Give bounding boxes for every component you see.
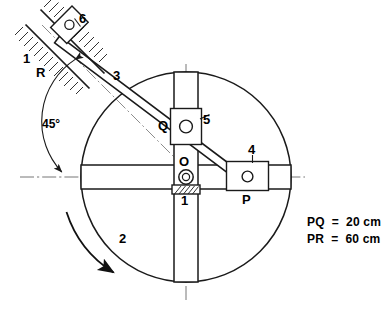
label-link-1-frame: 1 — [23, 52, 30, 65]
slider-q-pin — [180, 120, 193, 133]
label-link-1-ground: 1 — [181, 194, 188, 207]
label-point-q: Q — [158, 119, 168, 132]
label-link-4-slider-p: 4 — [248, 143, 255, 156]
label-point-o: O — [179, 155, 189, 168]
label-point-r: R — [36, 66, 45, 79]
mechanism-diagram: 1 R 6 3 45° 5 Q O 1 4 P 2 PQ = 20 cm PR … — [0, 0, 390, 310]
diagram-canvas — [0, 0, 390, 310]
dimension-pq: PQ = 20 cm — [307, 216, 381, 228]
slider-p-block — [227, 162, 269, 191]
slider-q-block — [171, 109, 202, 145]
slider-p-pin — [242, 171, 253, 182]
angle-arc-45 — [42, 59, 75, 172]
label-point-p: P — [242, 193, 251, 206]
label-angle-45: 45° — [42, 118, 60, 130]
dimension-pr: PR = 60 cm — [307, 233, 380, 245]
label-link-3: 3 — [113, 69, 120, 82]
label-link-6-slider-r: 6 — [79, 12, 86, 25]
slider-r-pin — [65, 20, 74, 29]
label-link-2-rotor: 2 — [119, 232, 126, 245]
leader-lines — [75, 19, 253, 164]
label-link-5-slider-q: 5 — [203, 113, 210, 126]
